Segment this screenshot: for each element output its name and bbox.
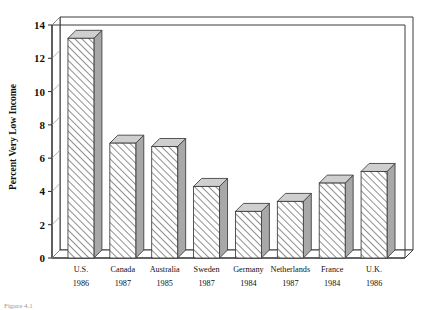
x-category-year-label: 1987	[115, 279, 131, 288]
bar	[361, 163, 395, 258]
x-category-label: Canada	[111, 265, 136, 274]
y-tick-label: 8	[40, 119, 46, 131]
x-category-year-label: 1987	[198, 279, 214, 288]
bar-chart: 02468101214 U.S.1986Canada1987Australia1…	[0, 0, 421, 310]
x-category-year-label: 1984	[240, 279, 256, 288]
y-tick-label: 4	[40, 185, 46, 197]
bar	[277, 193, 311, 258]
plot-frame	[52, 17, 413, 258]
x-category-label: France	[321, 265, 344, 274]
bar	[319, 175, 353, 258]
x-axis-category-labels: U.S.1986Canada1987Australia1985Sweden198…	[73, 265, 383, 288]
y-tick-label: 14	[34, 19, 46, 31]
x-category-year-label: 1986	[73, 279, 89, 288]
y-tick-label: 0	[40, 252, 46, 264]
x-category-year-label: 1986	[366, 279, 382, 288]
bar	[152, 138, 186, 258]
x-category-label: U.K.	[366, 265, 382, 274]
bar	[235, 203, 269, 258]
y-tick-label: 6	[40, 152, 46, 164]
y-tick-label: 2	[40, 219, 46, 231]
bars-group	[68, 30, 395, 258]
bar	[110, 135, 144, 258]
y-tick-label: 12	[34, 52, 46, 64]
bar	[194, 178, 228, 258]
y-axis-title: Percent Very Low Income	[7, 83, 18, 190]
x-category-label: U.S.	[74, 265, 89, 274]
x-category-year-label: 1984	[324, 279, 340, 288]
x-category-year-label: 1987	[282, 279, 298, 288]
y-tick-label: 10	[34, 86, 46, 98]
x-category-label: Sweden	[194, 265, 220, 274]
chart-container: 02468101214 U.S.1986Canada1987Australia1…	[0, 0, 421, 310]
x-category-label: Australia	[150, 265, 180, 274]
x-category-label: Netherlands	[271, 265, 311, 274]
figure-caption: Figure 4.1	[4, 302, 33, 310]
bar	[68, 30, 102, 258]
y-axis-tick-labels: 02468101214	[34, 19, 46, 264]
x-category-year-label: 1985	[157, 279, 173, 288]
x-category-label: Germany	[233, 265, 264, 274]
